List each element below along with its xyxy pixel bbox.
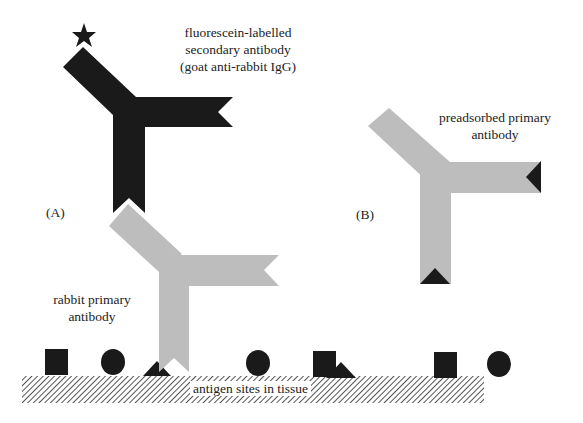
secondary-antibody-stem	[113, 97, 145, 213]
primary-label-line-2: antibody	[42, 308, 142, 325]
secondary-label-line-3: (goat anti-rabbit IgG)	[143, 58, 333, 75]
secondary-label-line-2: secondary antibody	[143, 41, 333, 58]
preadsorbed-antibody-label: preadsorbed primary antibody	[435, 109, 555, 143]
panel-b-label: (B)	[356, 206, 374, 223]
primary-label-line-1: rabbit primary	[42, 291, 142, 308]
primary-antibody	[109, 204, 279, 372]
preadsorbed-label-line-1: preadsorbed primary	[435, 109, 555, 126]
antigen-circle-3	[487, 351, 511, 377]
antigen-circle-1	[101, 349, 125, 375]
primary-antibody-stem	[159, 255, 189, 372]
secondary-antibody-label: fluorescein-labelled secondary antibody …	[143, 24, 333, 75]
preadsorbed-antibody-stem	[420, 162, 451, 284]
antigen-square-1	[45, 349, 68, 375]
tissue-label: antigen sites in tissue	[190, 381, 311, 396]
antigen-sites	[45, 349, 511, 378]
panel-a-label: (A)	[46, 204, 65, 221]
primary-antibody-label: rabbit primary antibody	[42, 291, 142, 325]
secondary-label-line-1: fluorescein-labelled	[143, 24, 333, 41]
antigen-circle-2	[246, 350, 270, 376]
fluorescein-star-icon	[72, 23, 96, 47]
antigen-square-3	[434, 352, 457, 378]
preadsorbed-label-line-2: antibody	[435, 126, 555, 143]
